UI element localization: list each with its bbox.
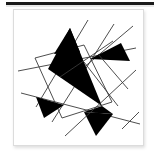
artwork-thumbnail-root — [0, 0, 156, 157]
right-gutter — [145, 0, 156, 157]
left-gutter — [0, 0, 13, 157]
bottom-gutter — [0, 148, 156, 157]
top-bar-underline — [6, 5, 154, 7]
artwork-canvas — [18, 14, 140, 142]
artwork-card[interactable] — [13, 9, 144, 146]
abstract-geometric-artwork — [18, 14, 140, 142]
